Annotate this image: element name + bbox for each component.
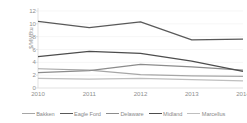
- line-chart: $/MMBtu 024681012 20102011201220132014 B…: [0, 0, 247, 123]
- legend-item-marcellus[interactable]: Marcellus: [187, 111, 225, 117]
- legend-item-bakken[interactable]: Bakken: [22, 111, 55, 117]
- plot-canvas: [0, 0, 247, 100]
- legend-label-eagle-ford: Eagle Ford: [74, 111, 101, 117]
- legend-label-midland: Midland: [163, 111, 182, 117]
- legend-line-swatch-bakken: [22, 113, 35, 114]
- legend-line-swatch-midland: [149, 113, 162, 114]
- legend-line-swatch-delaware: [106, 113, 119, 114]
- x-axis-tick-label: 2012: [134, 91, 148, 97]
- x-axis-tick-label: 2010: [31, 91, 45, 97]
- x-axis-tick-label: 2013: [185, 91, 199, 97]
- legend-label-delaware: Delaware: [120, 111, 143, 117]
- x-axis-tick-label: 2011: [83, 91, 96, 97]
- legend-label-bakken: Bakken: [36, 111, 54, 117]
- x-axis-tick-labels: 20102011201220132014: [38, 91, 243, 100]
- legend-item-eagle-ford[interactable]: Eagle Ford: [60, 111, 101, 117]
- plot-area: $/MMBtu 024681012 20102011201220132014: [0, 0, 247, 100]
- legend-item-midland[interactable]: Midland: [149, 111, 183, 117]
- legend-label-marcellus: Marcellus: [202, 111, 226, 117]
- series-line-marcellus: [38, 78, 243, 81]
- chart-legend: BakkenEagle FordDelawareMidlandMarcellus: [0, 104, 247, 123]
- legend-item-delaware[interactable]: Delaware: [106, 111, 144, 117]
- legend-line-swatch-eagle-ford: [60, 113, 73, 114]
- x-axis-tick-label: 2014: [236, 91, 247, 97]
- legend-line-swatch-marcellus: [187, 113, 200, 114]
